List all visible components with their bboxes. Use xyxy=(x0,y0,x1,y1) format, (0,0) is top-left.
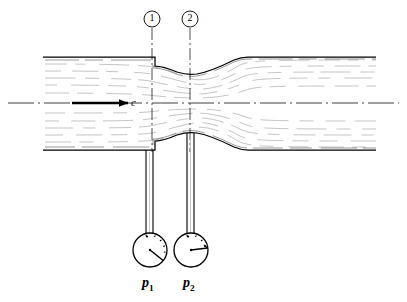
pressure-tap-tube-1 xyxy=(146,150,153,234)
section-marker-label-2: 2 xyxy=(182,12,198,23)
pressure-label-p2-sub: 2 xyxy=(190,283,195,293)
pressure-gauge-2[interactable] xyxy=(174,233,208,267)
section-marker-label-1: 1 xyxy=(144,12,160,23)
pipe-top-inner-contour xyxy=(45,59,376,76)
pressure-label-p2-base: p xyxy=(183,275,190,290)
pressure-label-p1: p1 xyxy=(142,275,154,293)
gauge-2-hub xyxy=(190,249,192,251)
diagram-canvas xyxy=(0,0,407,302)
pressure-label-p1-base: p xyxy=(142,275,149,290)
gauge-1-zero-dot xyxy=(146,235,148,237)
velocity-label: c xyxy=(131,96,136,108)
gauge-2-zero-dot xyxy=(187,235,189,237)
pressure-label-p2: p2 xyxy=(183,275,195,293)
pressure-tap-tube-2 xyxy=(187,133,194,234)
pipe-bottom-inner-contour xyxy=(45,131,376,148)
pressure-gauge-1[interactable] xyxy=(133,233,167,267)
venturi-flow-meter-figure: 1 2 c p1 p2 xyxy=(0,0,407,302)
pressure-label-p1-sub: 1 xyxy=(149,283,154,293)
gauge-1-hub xyxy=(149,249,151,251)
